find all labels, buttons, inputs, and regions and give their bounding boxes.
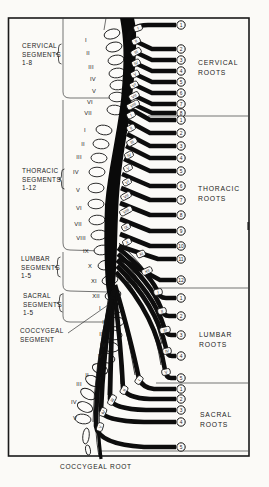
vertebra-numeral-thoracic-10: X	[88, 263, 92, 269]
vertebra-numeral-sacral-4: IV	[71, 399, 77, 405]
cervical-roots-label-line1: CERVICAL	[198, 59, 238, 66]
vertebra-numeral-cervical-5: V	[92, 88, 96, 94]
vertebra-numeral-lumbar-2: II	[102, 319, 106, 325]
svg-text:4: 4	[180, 69, 183, 74]
vertebra-numeral-cervical-2: II	[86, 50, 90, 56]
ligament-line	[104, 18, 106, 30]
svg-text:8: 8	[180, 111, 183, 116]
vertebra-thoracic-2	[93, 139, 110, 150]
vertebra-numeral-cervical-7: VII	[84, 110, 92, 116]
root-circle-cervical-4: 4	[177, 67, 185, 75]
vertebra-thoracic-4	[89, 167, 105, 177]
lumbar-segments-label-line3: 1-5	[21, 272, 31, 279]
svg-text:5: 5	[180, 445, 183, 450]
vertebra-numeral-lumbar-4: IV	[100, 342, 106, 348]
coccygeal-segment-label-line2: SEGMENT	[20, 336, 54, 343]
root-circle-lumbar-3: 3	[177, 331, 185, 339]
vertebra-numeral-cervical-6: VI	[87, 99, 93, 105]
vertebra-numeral-thoracic-9: IX	[83, 248, 89, 254]
root-circle-cervical-2: 2	[177, 45, 185, 53]
svg-text:7: 7	[180, 198, 183, 203]
root-circle-thoracic-4: 4	[177, 154, 185, 162]
lumbar-segments-label-line2: SEGMENTS	[21, 264, 60, 271]
thoracic-roots-label-line1: THORACIC	[198, 185, 240, 192]
vertebra-numeral-thoracic-2: II	[81, 141, 85, 147]
root-tag-lumbar-2: II	[157, 307, 167, 315]
vertebra-numeral-sacral-1: I	[97, 362, 99, 368]
border-ink-blot	[247, 222, 249, 230]
sacral-roots-label-line2: ROOTS	[200, 421, 228, 428]
vertebra-numeral-cervical-4: IV	[90, 76, 96, 82]
thoracic-segments-label-line2: SEGMENTS	[22, 176, 61, 183]
root-circle-thoracic-12: 12	[177, 276, 185, 284]
vertebra-numeral-lumbar-5: V	[98, 353, 102, 359]
svg-text:1: 1	[180, 296, 183, 301]
vertebra-thoracic-6	[88, 199, 104, 209]
svg-text:4: 4	[180, 420, 183, 425]
vertebra-numeral-thoracic-6: VI	[76, 205, 82, 211]
svg-text:3: 3	[180, 408, 183, 413]
vertebra-cervical-1	[103, 27, 121, 40]
coccyx	[82, 428, 91, 456]
root-circle-thoracic-7: 7	[177, 196, 185, 204]
root-tag-lumbar-5: V	[161, 368, 171, 376]
root-tag-thoracic-3: III	[126, 137, 138, 147]
svg-text:6: 6	[180, 184, 183, 189]
svg-text:5: 5	[180, 376, 183, 381]
cervical-roots-label-line2: ROOTS	[198, 69, 226, 76]
lumbar-roots-label-line1: LUMBAR	[199, 331, 232, 338]
root-circle-sacral-5: 5	[177, 443, 185, 451]
svg-text:3: 3	[180, 333, 183, 338]
root-circle-sacral-1: 1	[177, 385, 185, 393]
book-page: IIIIIIIVVVIVIIVIIIIIIIIIIVVVIVIIVIIIIXXX…	[0, 0, 269, 487]
root-circle-lumbar-5: 5	[177, 374, 185, 382]
root-circle-cervical-5: 5	[177, 78, 185, 86]
svg-text:4: 4	[180, 156, 183, 161]
svg-text:1: 1	[180, 118, 183, 123]
root-tag-thoracic-7: VII	[120, 191, 132, 201]
vertebra-numeral-sacral-5: V	[73, 415, 77, 421]
root-circle-thoracic-10: 10	[177, 242, 185, 250]
svg-text:1: 1	[180, 387, 183, 392]
cervical-segments-label-line2: SEGMENTS	[22, 51, 61, 58]
spinal-cord-segments-diagram: IIIIIIIVVVIVIIVIIIIIIIIIIVVVIVIIVIIIIXXX…	[0, 0, 269, 487]
svg-text:7: 7	[180, 102, 183, 107]
coccygeal-segment-label-line1: COCCYGEAL	[20, 327, 64, 334]
cervical-segments-label-line1: CERVICAL	[22, 42, 57, 49]
svg-text:8: 8	[180, 213, 183, 218]
root-circle-cervical-1: 1	[177, 21, 185, 29]
thoracic-segments-label-line1: THORACIC	[22, 167, 59, 174]
vertebra-numeral-thoracic-1: I	[84, 127, 86, 133]
svg-text:2: 2	[180, 397, 183, 402]
root-circle-lumbar-4: 4	[177, 352, 185, 360]
root-circle-sacral-2: 2	[177, 395, 185, 403]
root-number-circles: 123456781234567891011121234512345	[177, 21, 185, 451]
root-circle-cervical-6: 6	[177, 89, 185, 97]
vertebra-numeral-thoracic-3: III	[76, 154, 82, 160]
svg-text:2: 2	[180, 131, 183, 136]
vertebra-numeral-thoracic-8: VIII	[76, 235, 86, 241]
svg-text:3: 3	[180, 144, 183, 149]
svg-text:11: 11	[178, 257, 183, 262]
svg-text:9: 9	[180, 229, 183, 234]
root-tag-lumbar-1: I	[153, 288, 163, 296]
root-circle-lumbar-1: 1	[177, 294, 185, 302]
vertebra-numeral-thoracic-11: XI	[91, 278, 97, 284]
vertebra-numeral-thoracic-12: XII	[92, 293, 100, 299]
vertebra-thoracic-7	[89, 215, 105, 225]
root-circle-thoracic-11: 11	[177, 255, 185, 263]
vertebra-sacral-4	[76, 400, 94, 415]
svg-text:6: 6	[180, 91, 183, 96]
root-circle-cervical-3: 3	[177, 56, 185, 64]
vertebra-numeral-sacral-3: III	[76, 381, 82, 387]
root-circle-thoracic-8: 8	[177, 211, 185, 219]
lumbar-roots-label-line2: ROOTS	[199, 341, 227, 348]
cervical-segments-label-line3: 1-8	[22, 59, 32, 66]
svg-text:2: 2	[180, 314, 183, 319]
vertebra-thoracic-3	[91, 153, 107, 163]
vertebra-cervical-2	[105, 41, 123, 54]
root-circle-thoracic-6: 6	[177, 182, 185, 190]
svg-text:2: 2	[180, 47, 183, 52]
svg-text:5: 5	[180, 169, 183, 174]
vertebra-thoracic-1	[95, 124, 112, 136]
